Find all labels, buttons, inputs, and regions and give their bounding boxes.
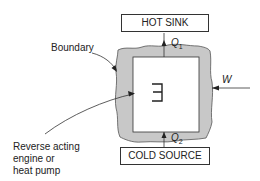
cold-source-box: COLD SOURCE	[120, 147, 210, 165]
boundary-label: Boundary	[51, 42, 94, 54]
cold-source-label: COLD SOURCE	[128, 150, 201, 161]
q1-label: Q1	[171, 37, 183, 53]
hot-sink-label: HOT SINK	[141, 17, 188, 28]
work-arrow-icon	[212, 86, 219, 91]
system-box	[133, 57, 199, 132]
work-label: W	[222, 74, 231, 86]
device-label: Reverse acting engine or heat pump	[13, 141, 80, 177]
q1-arrow-icon	[162, 40, 167, 46]
hot-sink-box: HOT SINK	[121, 14, 209, 32]
q2-label: Q2	[171, 132, 183, 148]
